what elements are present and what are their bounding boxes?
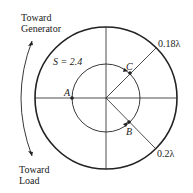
point-b-marker (127, 120, 131, 124)
toward-generator-label-1: Toward (21, 12, 51, 23)
wavelength-b-label: 0.2λ (157, 148, 174, 159)
radial-line-b (106, 98, 155, 148)
swr-label: S = 2.4 (53, 56, 82, 67)
smith-chart-diagram: Toward Generator Toward Load S = 2.4 A C… (0, 0, 193, 193)
point-a-label: A (64, 87, 70, 98)
point-a-marker (70, 96, 74, 100)
point-c-label: C (126, 61, 133, 72)
toward-load-label-1: Toward (19, 164, 49, 175)
arrow-down-icon (28, 151, 33, 156)
toward-load-label-2: Load (19, 175, 40, 186)
direction-arc (21, 41, 32, 156)
point-b-label: B (126, 126, 132, 137)
wavelength-c-label: 0.18λ (158, 38, 180, 49)
arrow-up-icon (28, 41, 33, 46)
toward-generator-label-2: Generator (21, 23, 61, 34)
